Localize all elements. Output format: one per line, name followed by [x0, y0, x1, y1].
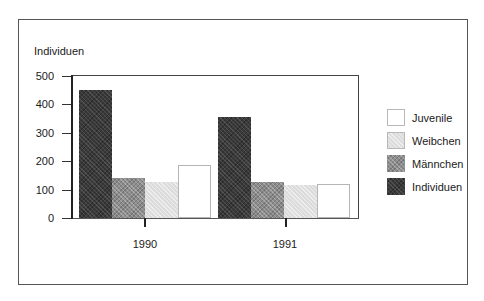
- bar-juvenile-1990: [178, 165, 211, 218]
- legend-label-individuen: Individuen: [412, 181, 462, 193]
- bar-maennchen-1990: [112, 178, 145, 218]
- legend-swatch-weibchen: [387, 132, 405, 149]
- y-tick-label: 500: [26, 70, 54, 82]
- y-axis-title: Individuen: [34, 45, 84, 57]
- legend-label-maennchen: Männchen: [412, 158, 463, 170]
- legend-label-juvenile: Juvenile: [412, 112, 452, 124]
- bar-maennchen-1991: [251, 182, 284, 218]
- y-tick: [62, 133, 71, 134]
- y-tick: [62, 76, 71, 77]
- y-tick-label: 300: [26, 127, 54, 139]
- legend-swatch-juvenile: [387, 109, 405, 126]
- bar-weibchen-1991: [284, 185, 317, 218]
- y-tick-label: 0: [26, 212, 54, 224]
- legend-swatch-individuen: [387, 178, 405, 195]
- x-tick-label-1991: 1991: [265, 238, 305, 250]
- bar-weibchen-1990: [145, 182, 178, 218]
- legend-label-weibchen: Weibchen: [412, 135, 461, 147]
- y-axis-line: [71, 75, 73, 219]
- y-tick: [62, 218, 71, 219]
- x-axis-line: [62, 218, 359, 219]
- x-tick: [285, 218, 287, 227]
- y-tick-label: 200: [26, 155, 54, 167]
- y-tick-label: 400: [26, 98, 54, 110]
- x-tick: [144, 218, 146, 227]
- legend-swatch-maennchen: [387, 155, 405, 172]
- bar-juvenile-1991: [317, 184, 350, 218]
- y-tick: [62, 161, 71, 162]
- y-tick: [62, 190, 71, 191]
- bar-individuen-1990: [79, 90, 112, 218]
- x-tick-label-1990: 1990: [125, 238, 165, 250]
- y-tick-label: 100: [26, 184, 54, 196]
- y-tick: [62, 104, 71, 105]
- bar-individuen-1991: [218, 117, 251, 218]
